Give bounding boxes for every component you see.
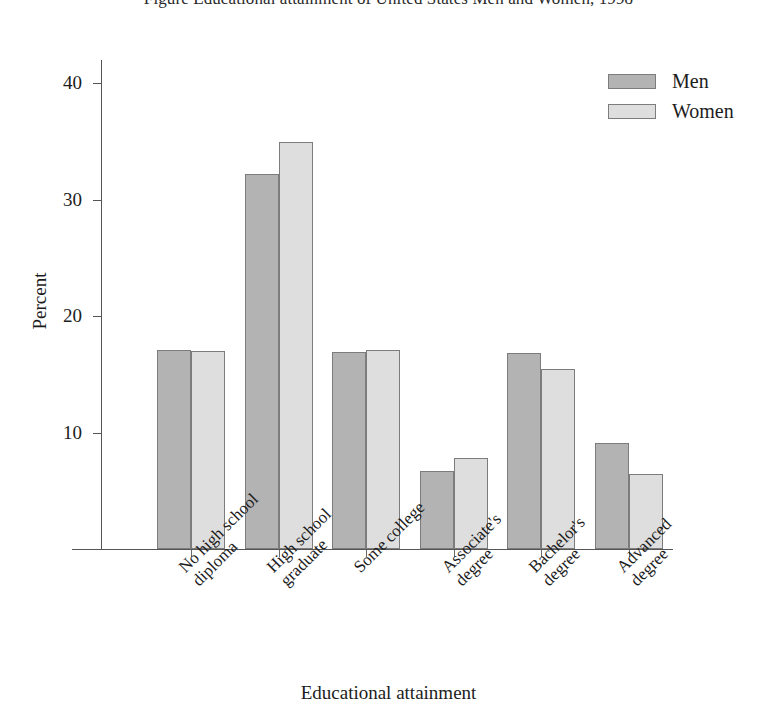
chart-legend: Men Women — [608, 66, 768, 126]
y-tick-20 — [93, 316, 102, 317]
y-tick-10 — [93, 433, 102, 434]
chart-title: Figure Educational attainment of United … — [0, 0, 777, 9]
y-tick-label-20: 20 — [48, 306, 82, 325]
y-tick-label-10: 10 — [48, 423, 82, 442]
legend-item-men: Men — [608, 66, 768, 96]
legend-swatch-women-icon — [608, 104, 656, 119]
legend-item-women: Women — [608, 96, 768, 126]
figure-container: Figure Educational attainment of United … — [0, 0, 777, 716]
bar-women-group-2 — [279, 142, 313, 550]
y-axis-title: Percent — [29, 241, 51, 361]
legend-label-men: Men — [672, 70, 709, 93]
y-axis-line — [101, 60, 102, 550]
y-tick-label-30: 30 — [48, 190, 82, 209]
x-axis-title: Educational attainment — [0, 682, 777, 704]
legend-label-women: Women — [672, 100, 734, 123]
bar-men-group-5 — [507, 353, 541, 549]
y-tick-label-40: 40 — [48, 73, 82, 92]
bar-men-group-6 — [595, 443, 629, 549]
y-tick-40 — [93, 83, 102, 84]
legend-swatch-men-icon — [608, 74, 656, 89]
y-tick-30 — [93, 200, 102, 201]
bar-men-group-1 — [157, 350, 191, 549]
